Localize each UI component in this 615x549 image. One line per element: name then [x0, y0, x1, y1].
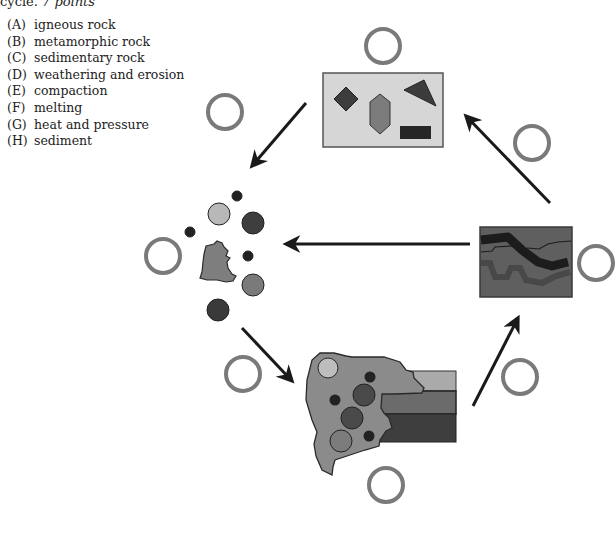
- rectangle-shape: [400, 126, 431, 139]
- answer-circle-lower-left[interactable]: [226, 357, 260, 391]
- panel-right-metamorphic: [480, 227, 572, 297]
- answer-circle-left[interactable]: [146, 239, 180, 273]
- answer-circle-top[interactable]: [366, 29, 400, 63]
- panel-top-shapes: [323, 73, 443, 147]
- answer-circle-bottom[interactable]: [369, 468, 403, 502]
- answer-circle-upper-left[interactable]: [208, 95, 242, 129]
- arrow-sedimentary-to-sediment: [252, 103, 306, 166]
- igneous-intrusion: [306, 353, 456, 475]
- hexagon-shape: [370, 94, 390, 134]
- answer-circle-lower-right[interactable]: [503, 360, 537, 394]
- sediment-particles: [185, 191, 264, 321]
- rock-fragment: [200, 241, 236, 282]
- arrow-sediment-to-igneous: [242, 328, 292, 381]
- answer-circle-right[interactable]: [579, 246, 613, 280]
- answer-circle-upper-right[interactable]: [515, 126, 549, 160]
- rock-cycle-diagram: [0, 0, 615, 549]
